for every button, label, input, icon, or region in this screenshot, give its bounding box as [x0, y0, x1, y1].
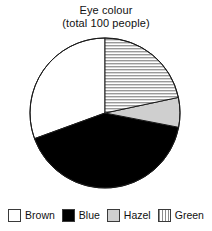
legend-item-hazel[interactable]: Hazel: [107, 209, 151, 222]
legend-swatch-blue-icon: [62, 209, 75, 222]
legend-item-blue[interactable]: Blue: [62, 209, 100, 222]
legend-swatch-hazel-icon: [107, 209, 120, 222]
chart-legend: Brown Blue Hazel Green: [0, 204, 212, 226]
legend-item-brown[interactable]: Brown: [8, 209, 55, 222]
legend-item-green[interactable]: Green: [158, 209, 204, 222]
legend-label-hazel: Hazel: [124, 209, 151, 221]
legend-swatch-brown-icon: [8, 209, 21, 222]
pie-plot-area: [0, 0, 212, 196]
legend-label-blue: Blue: [79, 209, 100, 221]
legend-swatch-green-icon: [158, 209, 171, 222]
pie-chart-figure: Eye colour (total 100 people) Brown Blue: [0, 0, 212, 231]
pie-svg: [0, 0, 212, 196]
legend-label-green: Green: [175, 209, 204, 221]
pie-slice-group: [30, 38, 180, 188]
legend-label-brown: Brown: [25, 209, 55, 221]
